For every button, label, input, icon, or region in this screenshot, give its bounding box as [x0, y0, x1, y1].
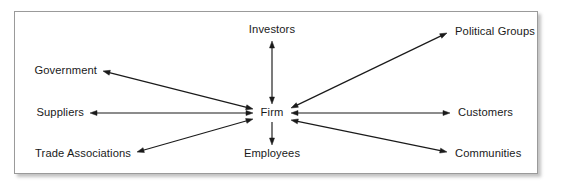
- edge-firm-political-groups-arrowhead-start: [291, 103, 298, 108]
- edge-firm-communities-line: [296, 121, 441, 151]
- edge-firm-suppliers-arrowhead-start: [246, 111, 253, 116]
- edge-firm-trade-associations: [137, 119, 253, 153]
- edge-firm-trade-associations-line: [142, 121, 247, 151]
- edge-firm-government-arrowhead-end: [103, 70, 110, 75]
- node-label-trade-associations: Trade Associations: [35, 148, 131, 159]
- edge-firm-communities-arrowhead-end: [440, 148, 447, 153]
- edge-firm-government: [103, 70, 253, 109]
- stakeholder-diagram: InvestorsPolitical GroupsGovernmentSuppl…: [0, 0, 574, 189]
- node-label-suppliers: Suppliers: [36, 107, 84, 118]
- edge-firm-investors-arrowhead-end: [270, 41, 275, 48]
- edge-firm-investors: [270, 41, 275, 104]
- edge-firm-communities: [291, 119, 447, 153]
- node-label-communities: Communities: [455, 148, 521, 159]
- node-label-investors: Investors: [249, 24, 295, 35]
- node-label-customers: Customers: [458, 107, 513, 118]
- edge-firm-employees-arrowhead-end: [270, 138, 275, 145]
- edge-firm-government-arrowhead-start: [246, 105, 253, 110]
- edge-firm-suppliers-arrowhead-end: [90, 111, 97, 116]
- edge-firm-political-groups: [291, 33, 447, 108]
- edge-firm-customers-arrowhead-start: [291, 111, 298, 116]
- edge-firm-trade-associations-arrowhead-end: [137, 148, 144, 153]
- edge-firm-customers: [291, 111, 450, 116]
- edge-firm-communities-arrowhead-start: [291, 119, 298, 124]
- node-label-government: Government: [34, 65, 97, 76]
- node-label-political-groups: Political Groups: [455, 26, 535, 37]
- hub-label-firm: Firm: [261, 107, 284, 118]
- edge-firm-political-groups-line: [296, 35, 442, 105]
- edge-firm-investors-arrowhead-start: [270, 97, 275, 104]
- edge-firm-customers-arrowhead-end: [443, 111, 450, 116]
- edge-firm-suppliers: [90, 111, 253, 116]
- node-label-employees: Employees: [244, 148, 300, 159]
- edge-firm-employees: [270, 122, 275, 145]
- edge-firm-trade-associations-arrowhead-start: [246, 119, 253, 124]
- edge-firm-government-line: [108, 72, 247, 107]
- edge-firm-political-groups-arrowhead-end: [440, 33, 447, 38]
